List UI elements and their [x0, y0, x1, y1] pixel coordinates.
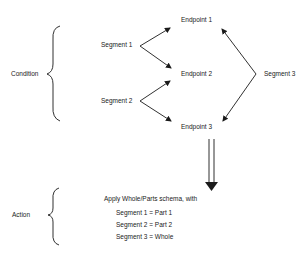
segment-1-arrows: [140, 28, 171, 68]
action-brace: [48, 188, 59, 245]
segment-2-arrows: [140, 81, 171, 121]
segment-2-label: Segment 2: [101, 98, 132, 105]
endpoint-3-label: Endpoint 3: [181, 124, 212, 131]
segment-3-arrows: [222, 29, 256, 121]
segment-1-label: Segment 1: [101, 42, 132, 49]
assignment-1: Segment 1 = Part 1: [116, 210, 172, 217]
diagram-canvas: [0, 0, 306, 256]
endpoint-1-label: Endpoint 1: [181, 17, 212, 24]
segment-3-label: Segment 3: [264, 71, 295, 78]
action-title: Apply Whole/Parts schema, with: [104, 196, 197, 203]
action-label: Action: [12, 212, 30, 219]
assignment-2: Segment 2 = Part 2: [116, 222, 172, 229]
endpoint-2-label: Endpoint 2: [181, 71, 212, 78]
condition-brace: [47, 26, 60, 121]
condition-label: Condition: [11, 71, 38, 78]
implies-double-arrow: [205, 139, 218, 191]
assignment-3: Segment 3 = Whole: [116, 234, 173, 241]
